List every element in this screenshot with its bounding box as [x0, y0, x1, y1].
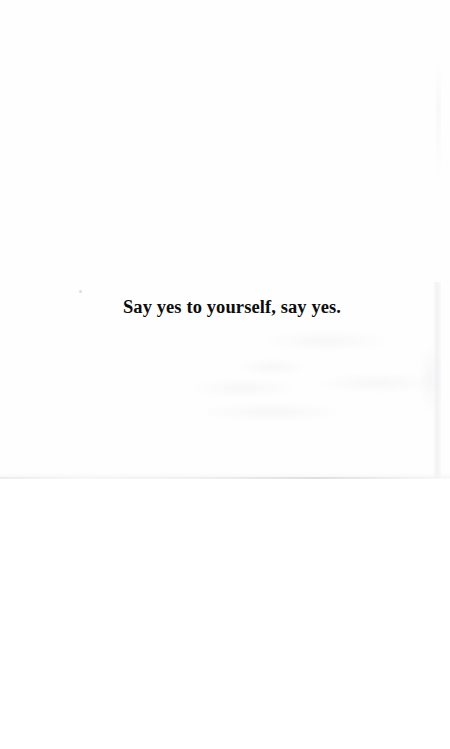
paper-leaf [0, 0, 450, 479]
dust-speck [79, 290, 82, 293]
epigraph: Say yes to yourself, say yes. [0, 296, 450, 318]
scanned-page: Say yes to yourself, say yes. [0, 0, 450, 749]
page-edge-bottom-line [0, 477, 450, 479]
epigraph-text: Say yes to yourself, say yes. [109, 296, 341, 318]
page-edge-right-shadow [436, 60, 441, 180]
